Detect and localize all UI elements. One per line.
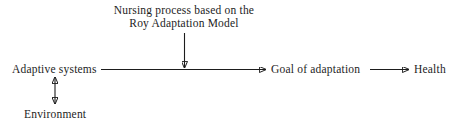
diagram-canvas: Nursing process based on the Roy Adaptat… bbox=[0, 0, 455, 130]
connector-layer bbox=[0, 0, 455, 130]
